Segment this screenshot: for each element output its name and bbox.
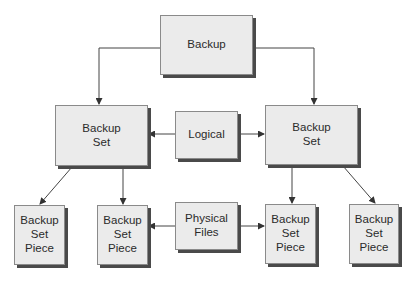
node-backup-set-left: Backup Set [55, 105, 148, 166]
node-label: Backup Set Piece [355, 213, 393, 254]
node-label: Backup Set Piece [20, 214, 58, 255]
node-label: Backup Set [82, 122, 120, 150]
node-logical: Logical [175, 111, 238, 159]
node-backup-set-piece-2: Backup Set Piece [97, 205, 148, 265]
node-backup-set-piece-3: Backup Set Piece [265, 204, 316, 264]
node-backup-set-right: Backup Set [265, 105, 358, 165]
backup-hierarchy-diagram: Backup Backup Set Logical Backup Set Bac… [0, 0, 413, 285]
node-backup-set-piece-1: Backup Set Piece [14, 205, 65, 265]
node-physical-files: Physical Files [175, 202, 238, 250]
node-label: Backup [187, 38, 225, 52]
node-label: Logical [188, 128, 224, 142]
node-label: Backup Set Piece [103, 214, 141, 255]
node-label: Physical Files [185, 212, 228, 240]
node-backup: Backup [160, 15, 253, 75]
node-label: Backup Set Piece [271, 213, 309, 254]
node-backup-set-piece-4: Backup Set Piece [349, 204, 399, 264]
node-label: Backup Set [292, 121, 330, 149]
